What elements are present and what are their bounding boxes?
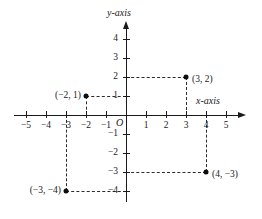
y-axis-tick (123, 58, 130, 59)
y-axis-tick (123, 191, 130, 192)
plotted-point (84, 94, 89, 99)
x-axis-tick-label: 2 (164, 121, 169, 131)
y-axis-tick-label: 2 (104, 72, 118, 82)
x-axis-tick-label: −4 (41, 121, 51, 131)
coordinate-plane-figure: −5−4−3−2−1123454321−1−2−3−4 x-axis y-axi… (0, 0, 262, 219)
y-axis-tick-label: 3 (104, 53, 118, 63)
plotted-point-label: (−2, 1) (55, 91, 81, 101)
x-axis-tick (146, 111, 147, 118)
x-axis-tick (206, 111, 207, 118)
x-axis-tick-label: 1 (144, 121, 149, 131)
plotted-point (184, 75, 189, 80)
x-axis-arrow-icon (238, 112, 246, 118)
plotted-point-label: (−3, −4) (30, 186, 61, 196)
plotted-point (64, 189, 69, 194)
plotted-point-label: (3, 2) (192, 75, 213, 85)
y-axis-tick (123, 134, 130, 135)
y-axis-tick-label: 4 (104, 34, 118, 44)
y-axis-tick (123, 172, 130, 173)
y-axis-label: y-axis (107, 8, 131, 18)
x-axis-tick-label: −3 (61, 121, 71, 131)
x-axis-tick (186, 111, 187, 118)
x-axis-label: x-axis (196, 96, 220, 106)
x-axis-tick-label: −5 (21, 121, 31, 131)
y-axis-tick (123, 96, 130, 97)
y-axis-arrow-icon (123, 21, 129, 29)
x-axis-tick-label: 4 (204, 121, 209, 131)
x-axis-tick-label: 5 (224, 121, 229, 131)
x-axis-tick (106, 111, 107, 118)
origin-label: O (116, 118, 123, 128)
y-axis-tick (123, 153, 130, 154)
y-axis-tick (123, 77, 130, 78)
x-axis-tick (66, 111, 67, 118)
y-axis-tick-label: −1 (104, 129, 118, 139)
guide-line-horizontal (126, 77, 186, 78)
y-axis-tick-label: −3 (104, 167, 118, 177)
x-axis-tick (26, 111, 27, 118)
guide-line-horizontal (126, 172, 206, 173)
guide-line-vertical (186, 77, 187, 115)
plotted-point-label: (4, −3) (212, 170, 238, 180)
x-axis-tick (226, 111, 227, 118)
x-axis-tick-label: 3 (184, 121, 189, 131)
y-axis-tick (123, 39, 130, 40)
x-axis-tick (166, 111, 167, 118)
y-axis-line (126, 28, 127, 203)
x-axis-tick-label: −2 (81, 121, 91, 131)
x-axis-tick (46, 111, 47, 118)
y-axis-tick-label: −2 (104, 148, 118, 158)
plotted-point (204, 170, 209, 175)
y-axis-tick-label: 1 (104, 91, 118, 101)
y-axis-tick-label: −4 (104, 186, 118, 196)
x-axis-tick (86, 111, 87, 118)
